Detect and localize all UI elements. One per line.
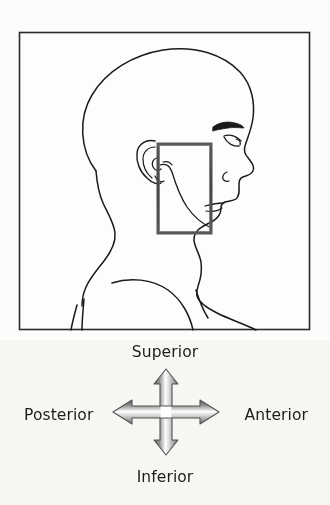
direction-cross-svg [110,366,222,458]
head-illustration-panel [0,0,330,340]
direction-label-posterior: Posterior [24,408,93,424]
direction-cross-arrows [110,366,222,458]
arrow-anterior-shape [166,400,219,424]
arrow-cross-center [161,407,172,418]
orientation-key: Superior Posterior Anterior Inferior [0,330,330,505]
arrow-posterior-shape [113,400,166,424]
arrow-anterior [166,400,219,424]
head-profile-svg [0,0,330,340]
direction-label-inferior: Inferior [0,470,330,486]
figure-root: Superior Posterior Anterior Inferior [0,0,330,505]
arrow-posterior [113,400,166,424]
direction-label-anterior: Anterior [245,408,308,424]
direction-label-superior: Superior [0,345,330,361]
